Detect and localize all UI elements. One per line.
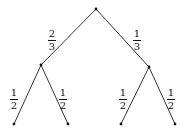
denominator: 2 — [11, 101, 17, 111]
numerator: 2 — [49, 29, 55, 39]
denominator: 2 — [120, 101, 126, 111]
numerator: 1 — [11, 88, 17, 98]
edge-label-left-lr: 1 2 — [59, 88, 67, 111]
edge-label-right-rr: 1 2 — [167, 88, 175, 111]
edge-label-right-rl: 1 2 — [119, 88, 127, 111]
numerator: 1 — [60, 88, 66, 98]
numerator: 1 — [134, 29, 140, 39]
numerator: 1 — [168, 88, 174, 98]
node-leaf-lr — [67, 123, 70, 126]
probability-tree — [0, 0, 187, 133]
node-leaf-rl — [120, 123, 123, 126]
edge-label-root-left: 2 3 — [48, 29, 56, 52]
edge-left-ll — [14, 65, 41, 124]
denominator: 2 — [60, 101, 66, 111]
denominator: 3 — [134, 42, 140, 52]
numerator: 1 — [120, 88, 126, 98]
denominator: 3 — [49, 42, 55, 52]
node-leaf-rr — [174, 123, 177, 126]
node-root — [95, 8, 98, 11]
node-right — [148, 66, 151, 69]
node-left — [40, 64, 43, 67]
node-leaf-ll — [13, 123, 16, 126]
edge-label-left-ll: 1 2 — [10, 88, 18, 111]
edge-label-root-right: 1 3 — [133, 29, 141, 52]
denominator: 2 — [168, 101, 174, 111]
edge-root-right — [96, 9, 149, 67]
